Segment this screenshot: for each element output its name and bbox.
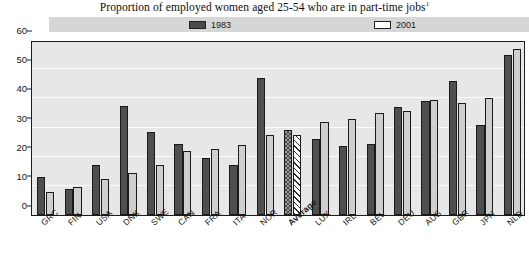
chart-legend: 1983 2001 (49, 17, 529, 32)
bar-group-fra (197, 42, 224, 215)
bar-irl-2001 (348, 119, 356, 215)
bar-dnk-1983 (120, 106, 128, 215)
bar-group-ita (224, 42, 251, 215)
legend-label-1983: 1983 (211, 20, 231, 30)
legend-swatch-1983-icon (189, 21, 206, 29)
bar-deu-1983 (394, 107, 402, 215)
bar-group-usa (87, 42, 114, 215)
bar-group-grc (32, 42, 59, 215)
bar-group-deu (389, 42, 416, 215)
y-axis: 0102030405060 (0, 41, 29, 216)
bar-group-fin (59, 42, 86, 215)
y-axis-tick-40: 40 (0, 83, 27, 94)
bar-can-2001 (183, 151, 191, 215)
bar-deu-2001 (403, 111, 411, 215)
bar-bel-2001 (375, 113, 383, 215)
bar-group-nor (252, 42, 279, 215)
y-axis-tick-30: 30 (0, 112, 27, 123)
bar-group-average (279, 42, 306, 215)
bar-group-bel (361, 42, 388, 215)
bar-bel-1983 (367, 144, 375, 215)
y-axis-tick-10: 10 (0, 170, 27, 181)
bar-fra-2001 (211, 149, 219, 215)
bar-usa-1983 (92, 165, 100, 215)
bar-group-dnk (114, 42, 141, 215)
bar-gbr-1983 (449, 81, 457, 215)
bar-lux-2001 (320, 122, 328, 215)
bar-group-aus (416, 42, 443, 215)
bar-group-irl (334, 42, 361, 215)
bar-nor-1983 (257, 78, 265, 215)
bar-ita-1983 (229, 165, 237, 215)
bar-jpn-2001 (485, 98, 493, 215)
x-axis-labels: GRCFINUSADNKSWECANFRAITANORAverageLUXIRL… (31, 218, 525, 270)
bar-group-swe (142, 42, 169, 215)
bars-layer (32, 42, 524, 215)
bar-fra-1983 (202, 158, 210, 215)
bar-aus-1983 (421, 101, 429, 215)
chart-title-footnote-marker: 1 (426, 0, 430, 8)
chart-root: Proportion of employed women aged 25-54 … (0, 0, 529, 270)
legend-label-2001: 2001 (396, 20, 416, 30)
bar-nld-2001 (513, 49, 521, 215)
y-axis-tick-20: 20 (0, 141, 27, 152)
bar-swe-1983 (147, 132, 155, 215)
bar-group-nld (499, 42, 525, 215)
chart-title-text: Proportion of employed women aged 25-54 … (100, 1, 426, 13)
bar-group-gbr (444, 42, 471, 215)
bar-group-jpn (471, 42, 498, 215)
bar-nor-2001 (266, 135, 274, 215)
bar-grc-1983 (37, 177, 45, 215)
legend-item-2001: 2001 (374, 17, 416, 32)
bar-group-lux (306, 42, 333, 215)
bar-average-1983 (284, 130, 292, 215)
y-axis-tick-50: 50 (0, 54, 27, 65)
plot-area (31, 41, 525, 216)
legend-item-1983: 1983 (189, 17, 231, 32)
bar-fin-1983 (65, 189, 73, 215)
bar-irl-1983 (339, 146, 347, 215)
y-axis-tick-0: 0 (0, 200, 27, 211)
bar-nld-1983 (504, 55, 512, 215)
chart-title: Proportion of employed women aged 25-54 … (0, 0, 529, 13)
y-axis-tick-mark (27, 30, 32, 31)
bar-average-2001 (293, 135, 301, 215)
bar-jpn-1983 (476, 125, 484, 215)
legend-swatch-2001-icon (374, 21, 391, 29)
bar-can-1983 (174, 144, 182, 215)
bar-gbr-2001 (458, 103, 466, 215)
y-axis-tick-60: 60 (0, 25, 27, 36)
bar-aus-2001 (430, 100, 438, 215)
bar-group-can (169, 42, 196, 215)
bar-ita-2001 (238, 145, 246, 215)
